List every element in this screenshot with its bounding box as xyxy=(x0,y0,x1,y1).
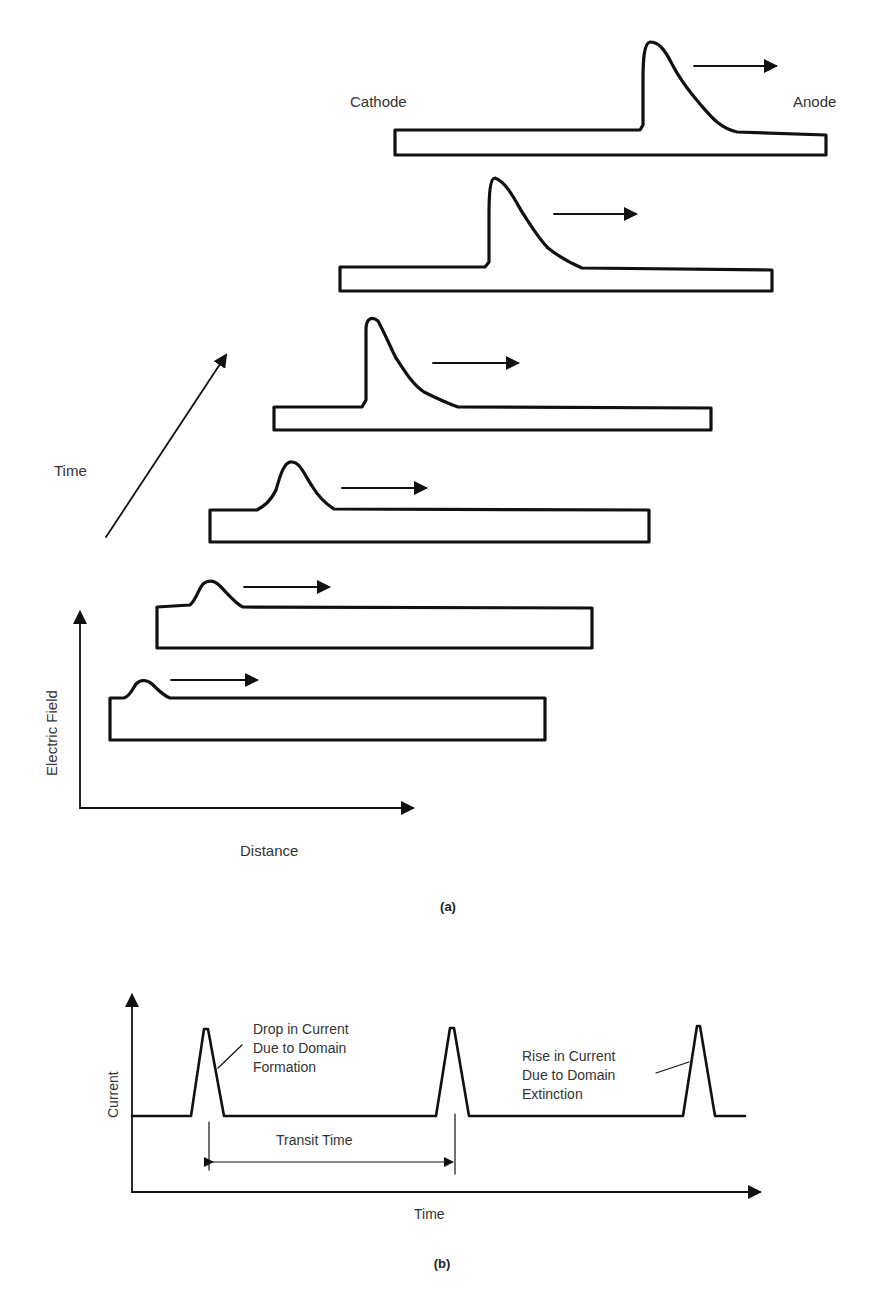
stage-3 xyxy=(210,462,649,542)
field-profile xyxy=(210,462,649,542)
figure-b: Current Time Transit Time Drop in Curren… xyxy=(105,995,760,1271)
field-profile xyxy=(395,42,826,155)
figure-a: Cathode Anode Time Electric Field Distan… xyxy=(43,42,836,914)
leader-right xyxy=(656,1062,689,1073)
stage-5 xyxy=(340,178,772,291)
annotation-left-line-3: Formation xyxy=(253,1059,316,1075)
caption-b: (b) xyxy=(434,1256,451,1271)
time-axis-label: Time xyxy=(54,462,87,479)
field-profile xyxy=(340,178,772,291)
transit-time-label: Transit Time xyxy=(276,1132,353,1148)
annotation-left-line-1: Drop in Current xyxy=(253,1021,349,1037)
annotation-left-line-2: Due to Domain xyxy=(253,1040,346,1056)
stage-4 xyxy=(274,318,711,430)
time-label: Time xyxy=(414,1206,445,1222)
leader-left xyxy=(218,1045,242,1068)
caption-a: (a) xyxy=(440,899,456,914)
distance-label: Distance xyxy=(240,842,298,859)
annotation-right-line-3: Extinction xyxy=(522,1086,583,1102)
field-profile xyxy=(110,681,545,740)
field-profile xyxy=(274,318,711,430)
anode-label: Anode xyxy=(793,93,836,110)
stage-1 xyxy=(110,680,545,740)
field-profile xyxy=(157,581,592,648)
gunn-domain-diagram: Cathode Anode Time Electric Field Distan… xyxy=(0,0,887,1297)
electric-field-label: Electric Field xyxy=(43,690,60,776)
stage-2 xyxy=(157,581,592,648)
current-waveform xyxy=(132,1026,745,1116)
stage-6 xyxy=(395,42,826,155)
cathode-label: Cathode xyxy=(350,93,407,110)
time-arrow xyxy=(106,355,226,537)
current-label: Current xyxy=(105,1071,121,1118)
annotation-right-line-2: Due to Domain xyxy=(522,1067,615,1083)
annotation-right-line-1: Rise in Current xyxy=(522,1048,615,1064)
